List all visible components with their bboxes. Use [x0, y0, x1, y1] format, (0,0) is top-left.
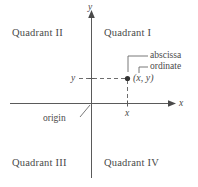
x-axis-label: x [179, 99, 183, 109]
y-axis-label: y [88, 3, 92, 13]
x-axis-arrowhead [168, 100, 176, 107]
origin-annotation-label: origin [43, 114, 66, 124]
quadrant-label-4: Quadrant IV [104, 158, 159, 169]
y-tick-label: y [71, 74, 75, 84]
plotted-point-marker [125, 76, 130, 81]
coordinate-plane-diagram: Quadrant II Quadrant I Quadrant III Quad… [0, 0, 198, 187]
quadrant-label-3: Quadrant III [12, 158, 67, 169]
x-tick-label: x [125, 109, 129, 119]
origin-leader-line [80, 105, 90, 117]
point-coordinate-label: (x, y) [133, 73, 154, 83]
abscissa-leader-line [128, 56, 148, 72]
quadrant-label-1: Quadrant I [104, 28, 151, 39]
ordinate-annotation-label: ordinate [150, 62, 181, 72]
quadrant-label-2: Quadrant II [12, 28, 63, 39]
abscissa-annotation-label: abscissa [150, 51, 181, 61]
